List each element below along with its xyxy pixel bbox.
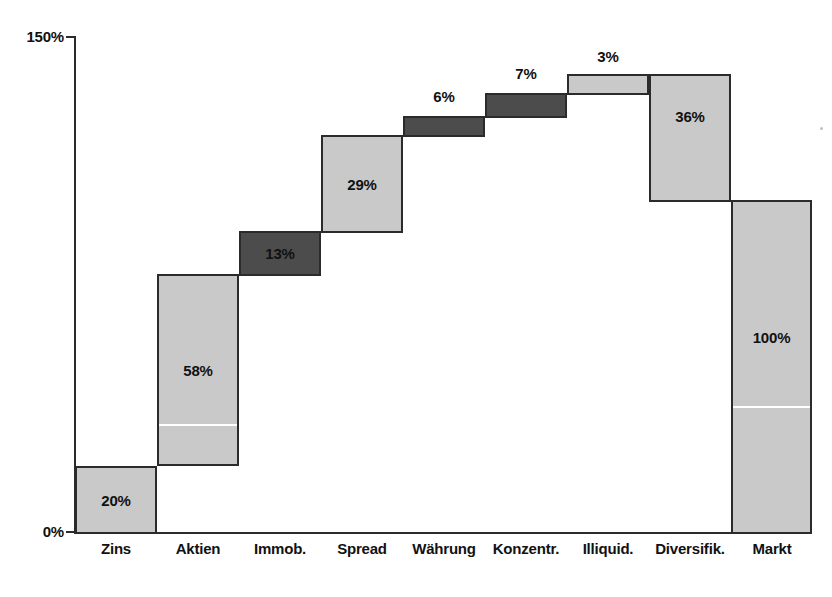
y-axis-line bbox=[74, 36, 76, 533]
y-axis-tick-0 bbox=[66, 531, 75, 533]
bar-value-diversifik: 36% bbox=[675, 108, 704, 125]
y-axis-label-150-text: 150% bbox=[26, 28, 64, 45]
bar-waehrung[interactable] bbox=[403, 116, 485, 137]
category-label-aktien: Aktien bbox=[157, 540, 239, 557]
scan-artifact-speck bbox=[820, 127, 823, 130]
bar-value-illiquid: 3% bbox=[567, 48, 649, 65]
bar-value-immob: 13% bbox=[265, 245, 294, 262]
category-label-waehrung: Währung bbox=[403, 540, 485, 557]
bar-value-aktien: 58% bbox=[183, 362, 212, 379]
bar-aktien[interactable]: 58% bbox=[157, 274, 239, 466]
bar-hairline-markt bbox=[733, 406, 810, 408]
y-axis-label-0-text: 0% bbox=[43, 523, 64, 540]
category-label-zins: Zins bbox=[75, 540, 157, 557]
bar-markt[interactable]: 100% bbox=[731, 200, 812, 534]
bar-value-markt: 100% bbox=[753, 329, 791, 346]
category-label-markt: Markt bbox=[731, 540, 813, 557]
bar-illiquid[interactable] bbox=[567, 74, 649, 95]
bar-value-waehrung: 6% bbox=[403, 88, 485, 105]
bar-value-spread: 29% bbox=[347, 176, 376, 193]
waterfall-chart: 150% 0% 20% 58% 13% 29% 6% 7% 3% 36% 100… bbox=[0, 0, 832, 597]
bar-spread[interactable]: 29% bbox=[321, 135, 403, 233]
category-label-diversifik: Diversifik. bbox=[647, 540, 733, 557]
category-label-spread: Spread bbox=[321, 540, 403, 557]
category-label-konzentr: Konzentr. bbox=[485, 540, 567, 557]
bar-konzentr[interactable] bbox=[485, 93, 567, 118]
bar-value-zins: 20% bbox=[101, 492, 130, 509]
category-label-illiquid: Illiquid. bbox=[567, 540, 649, 557]
bar-zins[interactable]: 20% bbox=[75, 466, 157, 534]
bar-immob[interactable]: 13% bbox=[239, 231, 321, 276]
y-axis-tick-150 bbox=[66, 36, 75, 38]
bar-diversifik[interactable]: 36% bbox=[649, 74, 731, 202]
bar-hairline-aktien bbox=[159, 424, 237, 426]
x-axis-line bbox=[74, 532, 812, 534]
category-label-immob: Immob. bbox=[239, 540, 321, 557]
bar-value-konzentr: 7% bbox=[485, 65, 567, 82]
